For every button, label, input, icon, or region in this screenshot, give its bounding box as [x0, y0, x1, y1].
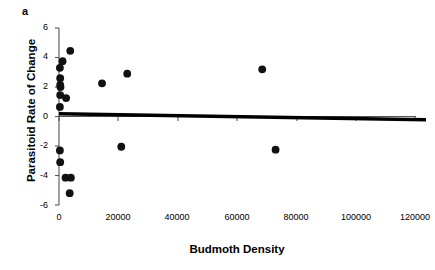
- data-point: [258, 65, 266, 73]
- data-point: [67, 174, 75, 182]
- data-point: [117, 143, 125, 151]
- data-point: [56, 64, 64, 72]
- data-point: [56, 147, 64, 155]
- data-point: [56, 74, 64, 82]
- data-point: [98, 79, 106, 87]
- data-point: [62, 94, 70, 102]
- data-point: [66, 47, 74, 55]
- data-point: [123, 70, 131, 78]
- data-point: [272, 146, 280, 154]
- data-point: [66, 189, 74, 197]
- data-markers: [56, 47, 279, 197]
- data-point: [56, 103, 64, 111]
- data-point: [56, 158, 64, 166]
- y-tickmarks: [55, 28, 59, 205]
- data-point: [57, 83, 65, 91]
- data-point: [59, 57, 67, 65]
